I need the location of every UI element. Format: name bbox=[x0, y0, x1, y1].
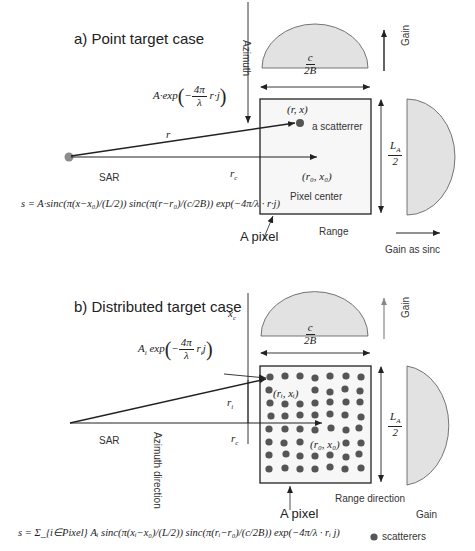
legend-label: scatterers bbox=[382, 531, 426, 542]
ri-symbol: ri bbox=[227, 396, 233, 411]
xc-symbol: xc bbox=[228, 307, 236, 322]
scatterer-legend-icon bbox=[370, 533, 377, 540]
pixel-label-b: A pixel bbox=[280, 506, 318, 521]
scatterer-coord-b: (rᵢ, xᵢ) bbox=[273, 387, 298, 399]
sar-label-b: SAR bbox=[99, 435, 120, 446]
azimuth-beam-width-b: LA2 bbox=[388, 411, 402, 438]
signal-equation-b: s = Σ_{i∈Pixel} Aᵢ sinc(π(xᵢ−x₀)/(L/2)) … bbox=[18, 526, 340, 538]
pixel-center-coord-b: (r₀, x₀) bbox=[310, 438, 340, 450]
gain-top-label-b: Gain bbox=[400, 297, 411, 318]
azimuth-direction-label: Azimuth direction bbox=[152, 432, 163, 509]
panel-b-title: b) Distributed target case bbox=[74, 298, 242, 315]
azimuth-gain-lobe-b bbox=[407, 366, 449, 485]
range-beam-width-b: c2B bbox=[304, 322, 316, 346]
echo-expression-b: Ai exp(−4πλ rij) bbox=[138, 337, 213, 361]
range-direction-label: Range direction bbox=[335, 493, 405, 504]
panel-b-graphics bbox=[0, 0, 475, 551]
gain-label-b: Gain bbox=[416, 509, 437, 520]
rc-symbol-b: rc bbox=[231, 432, 238, 447]
